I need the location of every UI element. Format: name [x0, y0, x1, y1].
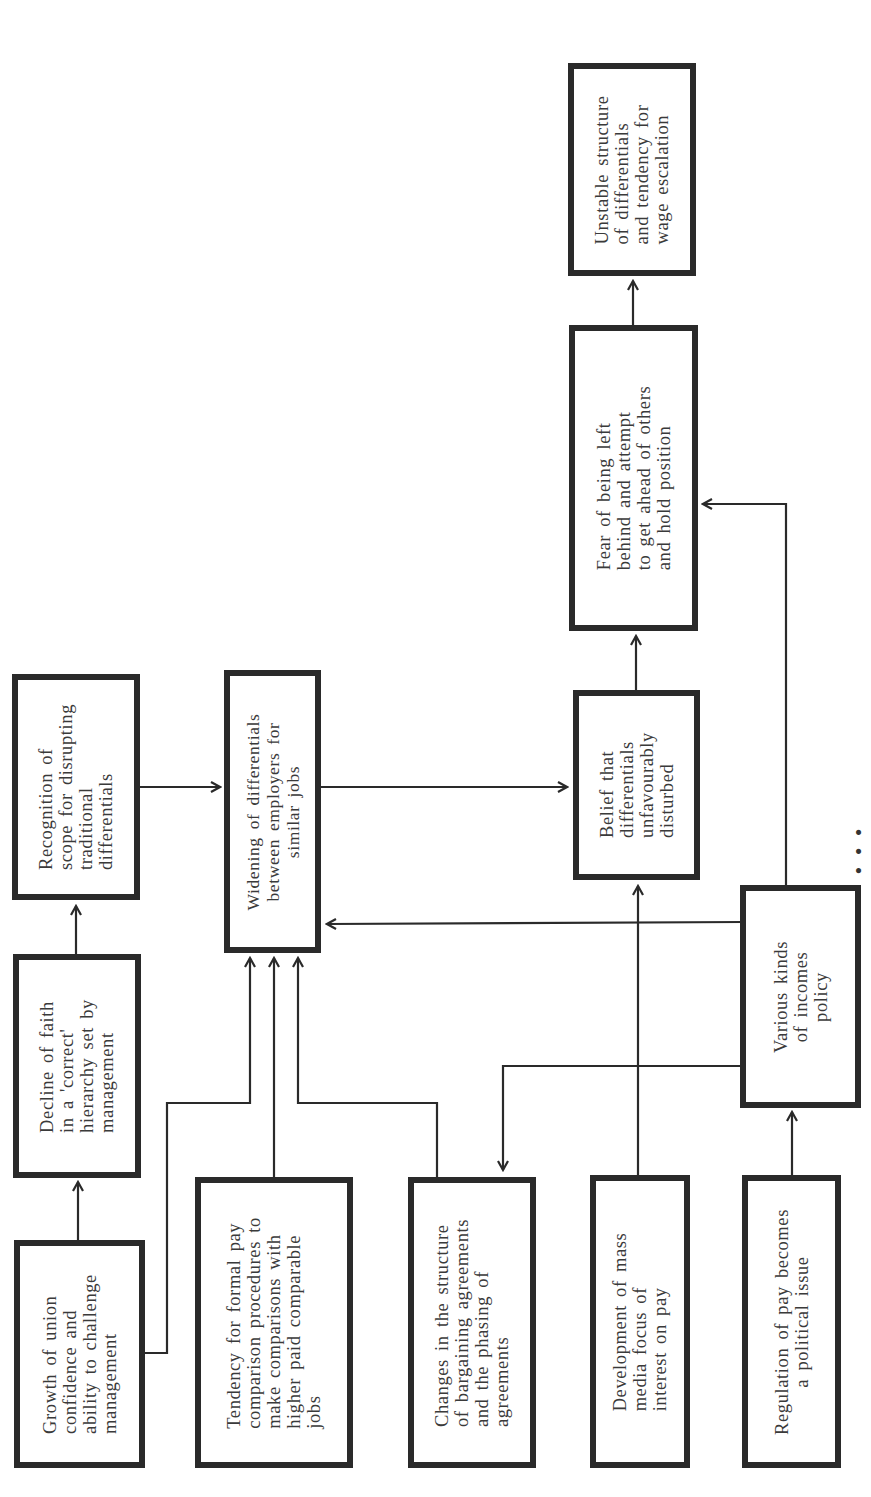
- node-union-confidence: Growth of union confidence and ability t…: [14, 1240, 145, 1468]
- node-widening-differentials: Widening of differentials between employ…: [224, 670, 321, 953]
- node-label: Belief that differentials unfavourably d…: [597, 732, 677, 838]
- node-label: Changes in the structure of bargaining a…: [432, 1218, 512, 1426]
- node-label: Unstable structure of differentials and …: [592, 95, 672, 244]
- node-formal-pay-comparison: Tendency for formal pay comparison proce…: [195, 1177, 353, 1468]
- node-fear-left-behind: Fear of being left behind and attempt to…: [569, 325, 698, 631]
- node-decline-faith: Decline of faith in a 'correct' hierarch…: [13, 954, 141, 1178]
- node-label: Fear of being left behind and attempt to…: [594, 386, 674, 570]
- figure-caption-clipped: • • •: [852, 600, 871, 1100]
- node-label: Tendency for formal pay comparison proce…: [224, 1217, 324, 1429]
- node-mass-media: Development of mass media focus of inter…: [590, 1175, 690, 1468]
- node-label: Various kinds of incomes policy: [771, 940, 831, 1052]
- node-label: Recognition of scope for disrupting trad…: [36, 704, 116, 870]
- node-incomes-policy: Various kinds of incomes policy: [740, 885, 861, 1108]
- node-label: Development of mass media focus of inter…: [610, 1232, 670, 1411]
- caption-text: • • •: [852, 825, 871, 874]
- node-recognition-scope: Recognition of scope for disrupting trad…: [12, 674, 140, 900]
- node-label: Regulation of pay becomes a political is…: [772, 1209, 812, 1435]
- node-regulation-political: Regulation of pay becomes a political is…: [742, 1175, 841, 1468]
- node-unstable-structure: Unstable structure of differentials and …: [568, 63, 696, 276]
- node-label: Growth of union confidence and ability t…: [40, 1274, 120, 1434]
- node-belief-disturbed: Belief that differentials unfavourably d…: [573, 690, 700, 880]
- node-bargaining-changes: Changes in the structure of bargaining a…: [408, 1177, 536, 1468]
- node-label: Decline of faith in a 'correct' hierarch…: [37, 999, 117, 1133]
- node-label: Widening of differentials between employ…: [243, 713, 303, 910]
